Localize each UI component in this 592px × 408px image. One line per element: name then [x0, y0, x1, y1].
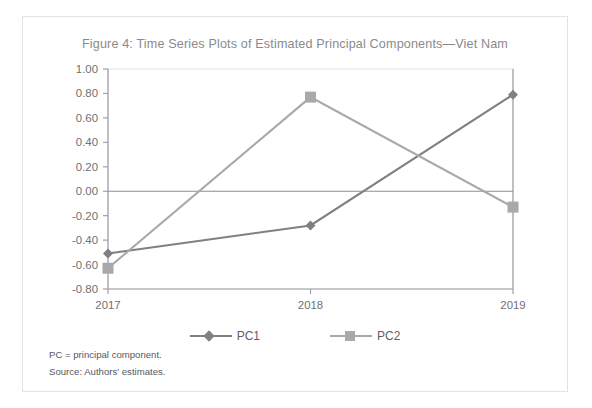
y-tick-label: 0.40	[76, 136, 98, 148]
y-tick-label: -0.40	[72, 234, 98, 246]
y-tick-label: -0.80	[72, 283, 98, 295]
x-tick-label: 2018	[298, 299, 323, 311]
data-point-marker-square[interactable]	[103, 263, 114, 274]
y-tick-label: 0.60	[76, 112, 98, 124]
footnote-source: Source: Authors' estimates.	[49, 366, 165, 377]
y-tick-label: -0.20	[72, 210, 98, 222]
data-point-marker-square[interactable]	[305, 92, 316, 103]
page-header-clipped-text	[0, 0, 592, 5]
series-line-pc2	[108, 97, 513, 268]
chart-legend: PC1 PC2	[23, 329, 567, 343]
figure-frame: Figure 4: Time Series Plots of Estimated…	[22, 16, 568, 392]
legend-entry-pc1[interactable]: PC1	[190, 329, 260, 343]
diamond-marker-icon	[203, 330, 214, 341]
x-tick-label: 2017	[95, 299, 120, 311]
data-point-marker-diamond[interactable]	[103, 249, 113, 259]
data-point-marker-square[interactable]	[508, 202, 519, 213]
y-tick-label: -0.60	[72, 259, 98, 271]
legend-entry-pc2[interactable]: PC2	[330, 329, 400, 343]
y-tick-label: 0.20	[76, 161, 98, 173]
square-marker-icon	[345, 331, 355, 341]
y-tick-label: 1.00	[76, 63, 98, 75]
y-tick-label: 0.00	[76, 185, 98, 197]
x-tick-label: 2019	[500, 299, 525, 311]
legend-label-pc2: PC2	[377, 329, 400, 343]
legend-line-pc1	[190, 335, 232, 337]
legend-line-pc2	[330, 335, 372, 337]
y-tick-label: 0.80	[76, 87, 98, 99]
footnote-pc-definition: PC = principal component.	[49, 349, 162, 360]
legend-label-pc1: PC1	[237, 329, 260, 343]
